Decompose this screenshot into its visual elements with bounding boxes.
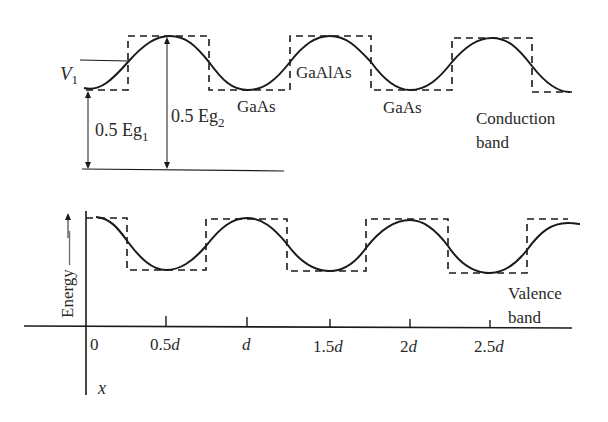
conduction-band-label-line1: Conduction bbox=[476, 109, 556, 128]
tick-label-0.5d: 0.5d bbox=[150, 335, 180, 354]
tick-label-d: d bbox=[242, 335, 251, 354]
valence-band-label-line1: Valence bbox=[508, 284, 562, 303]
valence-band-label-line2: band bbox=[508, 308, 542, 327]
v1-reference-line bbox=[80, 60, 128, 61]
tick-label-2d: 2d bbox=[400, 337, 418, 356]
tick-label-1.5d: 1.5d bbox=[313, 337, 343, 356]
eg2-label: 0.5 Eg2 bbox=[171, 106, 225, 130]
eg1-label: 0.5 Eg1 bbox=[95, 120, 149, 144]
eg2-arrow-head-top bbox=[164, 37, 170, 44]
conduction-band-label-line2: band bbox=[476, 133, 510, 152]
gaas-label-1: GaAs bbox=[237, 97, 276, 116]
eg2-arrow-head-bottom bbox=[164, 162, 170, 169]
valence-band-curve bbox=[96, 217, 580, 273]
v1-label: V1 bbox=[60, 63, 78, 87]
gaalas-label: GaAlAs bbox=[296, 63, 352, 82]
energy-axis-label: Energy —— bbox=[58, 230, 77, 318]
eg-baseline bbox=[82, 169, 284, 171]
eg1-arrow-head-bottom bbox=[85, 162, 91, 169]
energy-arrow-head bbox=[65, 213, 71, 220]
tick-label-2.5d: 2.5d bbox=[474, 337, 504, 356]
superlattice-band-diagram: V1 0.5 Eg1 0.5 Eg2 GaAs GaAlAs GaAs Cond… bbox=[0, 0, 608, 422]
gaas-label-2: GaAs bbox=[383, 98, 422, 117]
tick-label-0: 0 bbox=[90, 335, 99, 354]
eg1-arrow-head-top bbox=[85, 91, 91, 98]
valence-band-square-well bbox=[86, 218, 568, 273]
x-axis-label: x bbox=[97, 378, 106, 398]
